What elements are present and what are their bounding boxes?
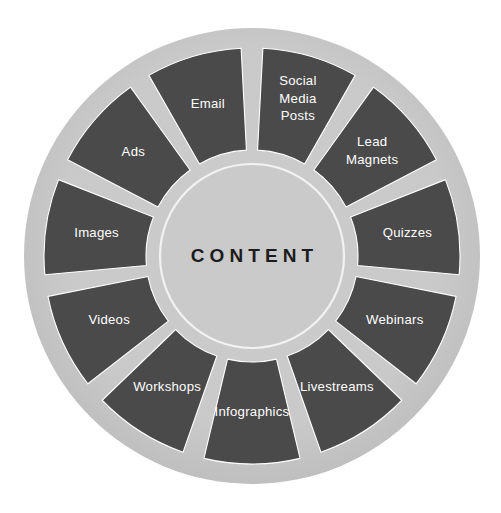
content-wheel-diagram: SocialMediaPostsLeadMagnetsQuizzesWebina… bbox=[0, 0, 501, 513]
wheel-svg: SocialMediaPostsLeadMagnetsQuizzesWebina… bbox=[0, 0, 501, 513]
